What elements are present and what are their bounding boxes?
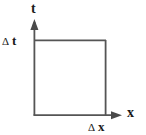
delta-t-variable: t bbox=[12, 33, 16, 48]
interval-rectangle bbox=[34, 40, 106, 115]
delta-t-label: Δt bbox=[2, 32, 16, 48]
diagram-canvas bbox=[0, 0, 146, 135]
spacetime-diagram-figure: t x Δt Δx bbox=[0, 0, 146, 135]
x-axis-label: x bbox=[127, 106, 134, 120]
delta-symbol-t: Δ bbox=[2, 35, 9, 47]
delta-x-label: Δx bbox=[88, 118, 105, 134]
x-axis-arrowhead-icon bbox=[111, 111, 122, 119]
t-axis-label: t bbox=[31, 2, 36, 16]
x-axis bbox=[34, 111, 123, 119]
delta-x-variable: x bbox=[98, 119, 105, 134]
delta-symbol-x: Δ bbox=[88, 121, 95, 133]
t-axis-arrowhead-icon bbox=[30, 19, 38, 30]
t-axis bbox=[30, 19, 38, 116]
